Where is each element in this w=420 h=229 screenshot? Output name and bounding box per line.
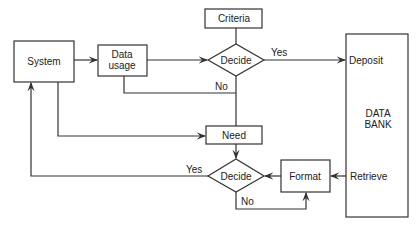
deposit-label: Deposit: [349, 55, 383, 66]
format-label: Format: [289, 171, 321, 182]
data-usage-label-2: usage: [108, 60, 136, 71]
flow-diagram: System Data usage Criteria Decide Yes No…: [0, 0, 420, 229]
decide2-label: Decide: [220, 171, 252, 182]
data-bank-label-1: DATA: [365, 108, 391, 119]
decide1-label: Decide: [220, 55, 252, 66]
retrieve-label: Retrieve: [350, 171, 388, 182]
criteria-label: Criteria: [218, 13, 251, 24]
decide1-yes-label: Yes: [271, 47, 287, 58]
decide1-no-label: No: [215, 81, 228, 92]
system-label: System: [27, 56, 60, 67]
decide2-yes-label: Yes: [186, 164, 202, 175]
need-label: Need: [222, 130, 246, 141]
decide2-no-label: No: [241, 196, 254, 207]
data-usage-label-1: Data: [111, 49, 133, 60]
data-bank-label-2: BANK: [364, 119, 392, 130]
